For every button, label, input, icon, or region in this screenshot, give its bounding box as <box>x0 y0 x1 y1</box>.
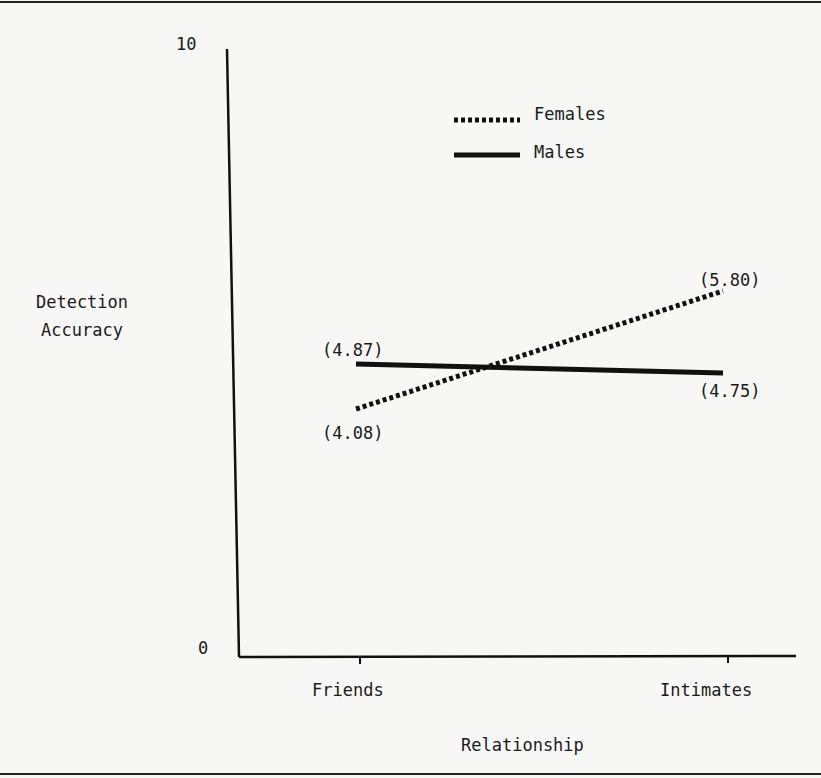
series-females-line <box>356 291 723 409</box>
legend-females-label: Females <box>534 106 606 123</box>
data-label-males-intimates: (4.75) <box>699 383 760 400</box>
y-axis-label-line2: Accuracy <box>22 322 142 339</box>
y-axis-label-line1: Detection <box>22 294 142 311</box>
series-males-line <box>356 364 723 373</box>
y-tick-label-max: 10 <box>176 36 196 53</box>
chart-plot-area <box>0 0 821 778</box>
data-label-females-friends: (4.08) <box>322 425 383 442</box>
data-label-males-friends: (4.87) <box>322 342 383 359</box>
legend-males-label: Males <box>534 144 585 161</box>
x-axis-label: Relationship <box>461 737 584 754</box>
x-axis <box>239 656 796 657</box>
y-axis <box>227 49 239 657</box>
y-tick-label-min: 0 <box>198 640 208 657</box>
x-tick-label-intimates: Intimates <box>660 682 752 699</box>
x-tick-label-friends: Friends <box>312 682 384 699</box>
data-label-females-intimates: (5.80) <box>699 272 760 289</box>
